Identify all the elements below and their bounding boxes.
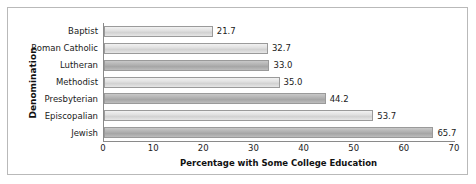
x-axis-tick-label: 50	[348, 143, 359, 153]
bar	[104, 110, 373, 121]
bar-value-label: 65.7	[437, 128, 456, 138]
y-axis-tick-label-text: Jewish	[71, 128, 98, 138]
y-axis-tick-label: Presbyterian	[38, 90, 98, 107]
y-axis-tick-label: Roman Catholic	[38, 40, 98, 57]
y-axis-tick-label-text: Baptist	[68, 26, 98, 36]
x-axis-tick-label: 20	[198, 143, 209, 153]
plot-area: 21.732.733.035.044.253.765.7	[103, 23, 455, 142]
chart-figure: Denomination BaptistRoman CatholicLuther…	[7, 7, 468, 175]
bar-series: 21.732.733.035.044.253.765.7	[104, 23, 455, 141]
y-axis-tick-labels: BaptistRoman CatholicLutheranMethodistPr…	[38, 23, 98, 141]
bar-value-label: 33.0	[273, 60, 292, 70]
y-axis-tick-label: Methodist	[38, 74, 98, 91]
bar	[104, 26, 213, 37]
bar	[104, 77, 280, 88]
bar-row: 53.7	[104, 107, 455, 124]
bar-row: 32.7	[104, 40, 455, 57]
bar	[104, 127, 433, 138]
bar-row: 33.0	[104, 57, 455, 74]
y-axis-tick-label: Baptist	[38, 23, 98, 40]
bar	[104, 60, 269, 71]
bar-value-label: 44.2	[330, 94, 349, 104]
y-axis-tick-label-text: Roman Catholic	[31, 43, 98, 53]
bar-row: 35.0	[104, 74, 455, 91]
y-axis-tick-label: Jewish	[38, 124, 98, 141]
x-axis-tick-label: 40	[298, 143, 309, 153]
bar-value-label: 21.7	[217, 26, 236, 36]
bar-row: 21.7	[104, 23, 455, 40]
bar	[104, 93, 326, 104]
y-axis-tick-label-text: Lutheran	[60, 60, 98, 70]
x-axis-tick-label: 60	[398, 143, 409, 153]
bar-row: 44.2	[104, 90, 455, 107]
bar-value-label: 32.7	[272, 43, 291, 53]
y-axis-tick-label-text: Presbyterian	[45, 94, 98, 104]
bar-row: 65.7	[104, 124, 455, 141]
x-axis-tick-label: 70	[449, 143, 460, 153]
x-axis-tick-labels: 010203040506070	[103, 143, 454, 156]
x-axis-tick-label: 0	[100, 143, 105, 153]
y-axis-tick-label-text: Methodist	[56, 77, 98, 87]
y-axis-tick-label-text: Episcopalian	[45, 111, 98, 121]
bar-value-label: 53.7	[377, 111, 396, 121]
x-axis-tick-label: 10	[148, 143, 159, 153]
bar	[104, 43, 268, 54]
x-axis-title: Percentage with Some College Education	[103, 158, 454, 168]
y-axis-title-text: Denomination	[28, 47, 38, 118]
bar-value-label: 35.0	[284, 77, 303, 87]
y-axis-tick-label: Episcopalian	[38, 107, 98, 124]
x-axis-tick-label: 30	[248, 143, 259, 153]
y-axis-tick-label: Lutheran	[38, 57, 98, 74]
